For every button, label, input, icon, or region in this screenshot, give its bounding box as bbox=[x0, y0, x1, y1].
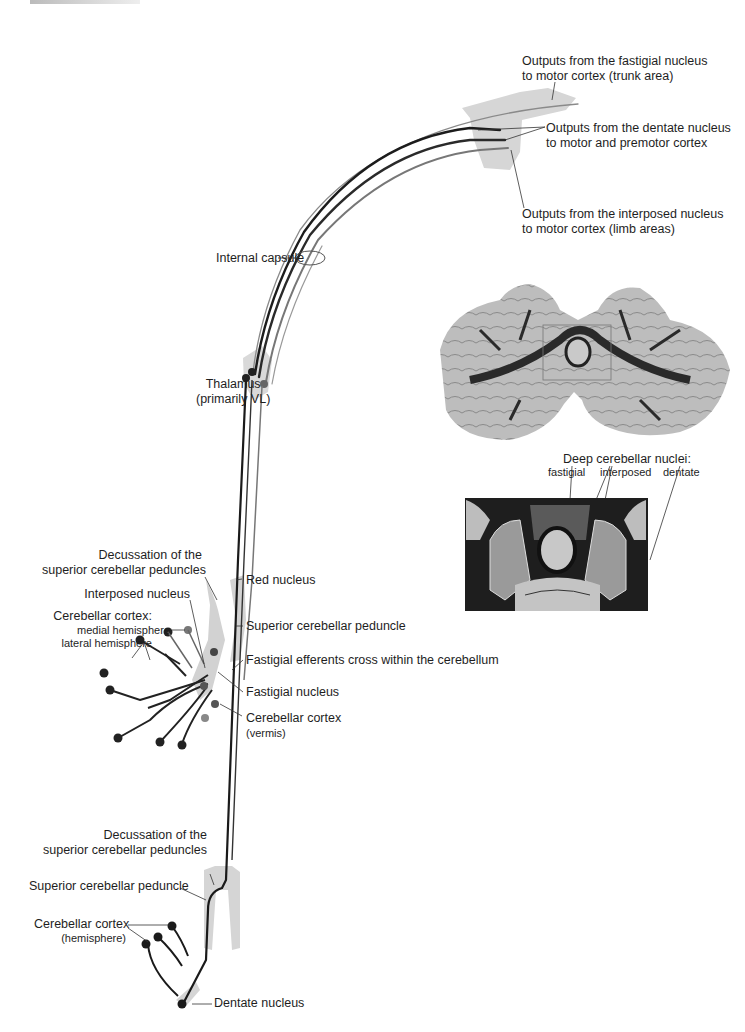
cerebellum-section-image bbox=[440, 284, 730, 440]
label-deep-nuclei-title: Deep cerebellar nuclei: bbox=[563, 452, 691, 467]
label-decussation-lower: Decussation of the superior cerebellar p… bbox=[42, 828, 207, 858]
label-line: to motor cortex (trunk area) bbox=[522, 69, 708, 84]
label-line: superior cerebellar peduncles bbox=[42, 563, 202, 578]
label-superior-cerebellar-peduncle-lower: Superior cerebellar peduncle bbox=[29, 879, 189, 894]
label-fastigial-nucleus: Fastigial nucleus bbox=[246, 685, 339, 700]
label-interposed-output: Outputs from the interposed nucleus to m… bbox=[522, 207, 724, 237]
label-nucleus-dentate: dentate bbox=[663, 466, 700, 479]
label-decussation-upper: Decussation of the superior cerebellar p… bbox=[42, 548, 202, 578]
label-line: to motor and premotor cortex bbox=[546, 136, 731, 151]
label-thalamus: Thalamus (primarily VL) bbox=[196, 377, 270, 407]
label-line: Decussation of the bbox=[42, 548, 202, 563]
label-line: Outputs from the dentate nucleus bbox=[546, 121, 731, 136]
label-superior-cerebellar-peduncle: Superior cerebellar peduncle bbox=[246, 619, 406, 634]
label-medial-hemisphere: medial hemisphere bbox=[40, 624, 170, 637]
label-hemisphere: (hemisphere) bbox=[34, 932, 126, 945]
lower-cortex-nodes bbox=[142, 922, 187, 1009]
label-fastigial-efferents: Fastigial efferents cross within the cer… bbox=[246, 653, 499, 668]
label-line: to motor cortex (limb areas) bbox=[522, 222, 724, 237]
label-line: (primarily VL) bbox=[196, 392, 270, 407]
label-nucleus-fastigial: fastigial bbox=[548, 466, 585, 479]
deep-nuclei-image bbox=[465, 498, 648, 611]
label-line: Thalamus bbox=[196, 377, 270, 392]
label-lateral-hemisphere: lateral hemisphere bbox=[40, 637, 152, 650]
label-internal-capsule: Internal capsule bbox=[216, 251, 304, 266]
label-line: Cerebellar cortex bbox=[246, 711, 341, 726]
label-red-nucleus: Red nucleus bbox=[246, 573, 316, 588]
label-fastigial-output: Outputs from the fastigial nucleus to mo… bbox=[522, 54, 708, 84]
label-line: superior cerebellar peduncles bbox=[42, 843, 207, 858]
label-cerebellar-cortex: Cerebellar cortex: bbox=[40, 609, 152, 624]
label-line: (vermis) bbox=[246, 726, 341, 741]
pathway-diagram bbox=[0, 0, 745, 1032]
lower-peduncle-region bbox=[204, 866, 240, 950]
label-line: Outputs from the interposed nucleus bbox=[522, 207, 724, 222]
label-cerebellar-cortex-lower: Cerebellar cortex bbox=[34, 917, 126, 932]
label-dentate-nucleus: Dentate nucleus bbox=[214, 996, 304, 1011]
label-cerebellar-cortex-vermis: Cerebellar cortex (vermis) bbox=[246, 711, 341, 741]
label-interposed-nucleus: Interposed nucleus bbox=[60, 587, 190, 602]
upper-cortex-branches bbox=[110, 640, 212, 744]
label-dentate-output: Outputs from the dentate nucleus to moto… bbox=[546, 121, 731, 151]
label-line: Decussation of the bbox=[42, 828, 207, 843]
label-nucleus-interposed: interposed bbox=[600, 466, 651, 479]
label-line: Outputs from the fastigial nucleus bbox=[522, 54, 708, 69]
